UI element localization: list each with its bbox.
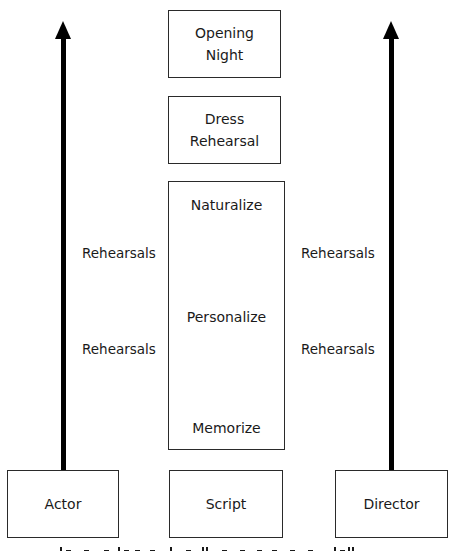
left-rehearsals-label-upper: Rehearsals [82, 245, 156, 261]
dress-rehearsal-line-1: Dress [205, 108, 244, 130]
script-box: Script [169, 470, 283, 538]
opening-night-box: Opening Night [168, 10, 281, 78]
left-rehearsals-label-lower: Rehearsals [82, 341, 156, 357]
director-arrowhead-icon [383, 21, 399, 39]
opening-night-line-1: Opening [195, 22, 254, 44]
director-label: Director [363, 493, 419, 515]
director-box: Director [335, 470, 448, 538]
script-label: Script [206, 493, 247, 515]
actor-arrowhead-icon [55, 21, 71, 39]
opening-night-line-2: Night [206, 44, 244, 66]
stage-personalize: Personalize [187, 306, 266, 328]
actor-box: Actor [7, 470, 119, 538]
director-rehearsal-arrow [389, 36, 394, 472]
rehearsal-stages-box: Naturalize Personalize Memorize [168, 181, 285, 450]
clipped-caption-glyphs [0, 542, 456, 551]
stage-memorize: Memorize [192, 417, 261, 439]
right-rehearsals-label-upper: Rehearsals [301, 245, 375, 261]
actor-label: Actor [45, 493, 82, 515]
actor-rehearsal-arrow [61, 36, 66, 472]
stage-naturalize: Naturalize [191, 194, 263, 216]
right-rehearsals-label-lower: Rehearsals [301, 341, 375, 357]
dress-rehearsal-box: Dress Rehearsal [168, 96, 281, 164]
clipped-caption [0, 540, 456, 551]
dress-rehearsal-line-2: Rehearsal [190, 130, 259, 152]
